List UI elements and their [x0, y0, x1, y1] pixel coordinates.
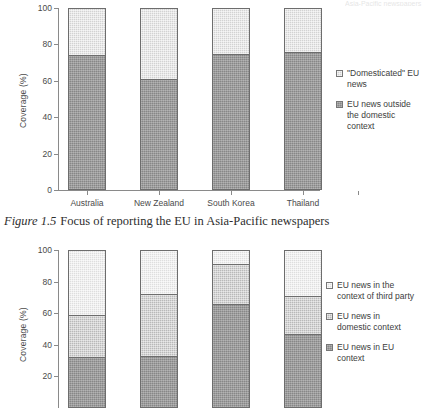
bar-thailand [284, 250, 322, 408]
bar-segment [212, 250, 250, 264]
bar-south-korea [212, 8, 250, 190]
legend-label: "Domesticated" EU news [347, 68, 419, 90]
x-tick [87, 191, 88, 195]
bar-new-zealand [140, 8, 178, 190]
bar-segment [140, 356, 178, 408]
y-tick-label: 20 [24, 149, 52, 159]
bar-segment [68, 357, 106, 408]
figure-caption: Figure 1.5Focus of reporting the EU in A… [4, 214, 434, 229]
legend-label: EU news in the context of third party [337, 280, 414, 302]
x-axis-line-top [58, 190, 320, 191]
x-axis-category-label: Thailand [263, 198, 343, 208]
bar-segment [212, 54, 250, 191]
y-tick-label: 100 [24, 3, 52, 13]
y-tick [54, 376, 58, 377]
y-tick [54, 117, 58, 118]
y-tick-label: 80 [24, 39, 52, 49]
x-tick [303, 191, 304, 195]
figure-page: Asia-Pacific newspapers Coverage (%) 020… [0, 0, 435, 408]
x-tick [159, 191, 160, 195]
bar-segment [212, 8, 250, 54]
bar-segment [140, 294, 178, 356]
y-tick [54, 154, 58, 155]
y-tick [54, 345, 58, 346]
y-tick [54, 282, 58, 283]
legend-item: EU news in EU context [326, 342, 414, 364]
legend-item: EU news in the context of third party [326, 280, 414, 302]
bar-segment [284, 8, 322, 52]
bar-segment [68, 8, 106, 55]
x-tick [358, 191, 359, 195]
x-axis-category-label: South Korea [191, 198, 271, 208]
y-tick-label: 60 [24, 76, 52, 86]
bar-segment [284, 334, 322, 408]
legend-label: EU news outside the domestic context [347, 99, 411, 132]
bar-segment [68, 55, 106, 190]
y-tick [54, 8, 58, 9]
bar-south-korea [212, 250, 250, 408]
bar-segment [212, 304, 250, 408]
legend-swatch-icon [336, 70, 343, 77]
y-tick [54, 250, 58, 251]
y-tick-label: 80 [24, 277, 52, 287]
legend-item: "Domesticated" EU news [336, 68, 419, 90]
bar-segment [284, 296, 322, 334]
legend-swatch-icon [326, 282, 333, 289]
legend-label: EU news in domestic context [337, 311, 401, 333]
y-tick-label: 20 [24, 371, 52, 381]
legend-item: EU news outside the domestic context [336, 99, 419, 132]
bar-new-zealand [140, 250, 178, 408]
bar-thailand [284, 8, 322, 190]
y-tick-label: 0 [24, 185, 52, 195]
y-axis-line-bottom [58, 250, 59, 408]
legend-top: "Domesticated" EU newsEU news outside th… [336, 68, 419, 141]
bar-segment [140, 250, 178, 294]
bar-segment [284, 250, 322, 296]
x-tick [231, 191, 232, 195]
y-tick [54, 81, 58, 82]
legend-swatch-icon [326, 344, 333, 351]
legend-swatch-icon [336, 101, 343, 108]
bar-segment [212, 264, 250, 304]
legend-item: EU news in domestic context [326, 311, 414, 333]
bar-segment [140, 8, 178, 79]
y-tick [54, 44, 58, 45]
bar-segment [68, 315, 106, 358]
bar-segment [284, 52, 322, 190]
y-tick [54, 190, 58, 191]
y-tick-label: 60 [24, 308, 52, 318]
legend-bottom: EU news in the context of third partyEU … [326, 280, 414, 373]
y-tick-label: 40 [24, 340, 52, 350]
stacked-bar-chart-top: Coverage (%) 020406080100 AustraliaNew Z… [0, 0, 435, 206]
y-tick-label: 100 [24, 245, 52, 255]
bar-segment [68, 250, 106, 315]
bar-australia [68, 8, 106, 190]
y-tick [54, 313, 58, 314]
x-axis-category-label: New Zealand [119, 198, 199, 208]
y-axis-line-top [58, 8, 59, 190]
figure-number: Figure 1.5 [4, 214, 56, 228]
bar-segment [140, 79, 178, 190]
legend-label: EU news in EU context [337, 342, 394, 364]
legend-swatch-icon [326, 313, 333, 320]
stacked-bar-chart-bottom: Coverage (%) 20406080100 EU news in the … [0, 232, 435, 408]
bar-australia [68, 250, 106, 408]
figure-caption-text: Focus of reporting the EU in Asia-Pacifi… [60, 214, 329, 228]
y-tick-label: 40 [24, 112, 52, 122]
x-axis-category-label: Australia [47, 198, 127, 208]
